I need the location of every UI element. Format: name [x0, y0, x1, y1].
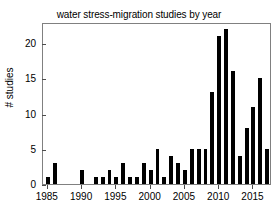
bar [231, 71, 235, 184]
bar [53, 163, 57, 184]
x-tick-mark [47, 185, 48, 189]
bar [162, 177, 166, 184]
y-tick-label: 20 [2, 38, 36, 49]
bar [204, 149, 208, 184]
y-tick-label: 0 [2, 179, 36, 190]
bar [258, 78, 262, 184]
bar [80, 170, 84, 184]
y-tick-mark [42, 185, 46, 186]
bar [265, 149, 269, 184]
bar [149, 170, 153, 184]
bar [197, 149, 201, 184]
y-tick-label: 5 [2, 144, 36, 155]
bar [94, 177, 98, 184]
bar [217, 36, 221, 184]
x-tick-label: 2000 [130, 191, 170, 202]
y-axis-label: # studies [4, 52, 15, 124]
bar [183, 170, 187, 184]
x-tick-label: 2010 [198, 191, 238, 202]
bar [245, 128, 249, 184]
chart-title: water stress-migration studies by year [0, 9, 278, 20]
x-tick-mark [150, 185, 151, 189]
x-tick-label: 1995 [95, 191, 135, 202]
x-tick-mark [218, 185, 219, 189]
bar [224, 29, 228, 184]
x-tick-label: 2015 [232, 191, 272, 202]
bar [190, 149, 194, 184]
bar [176, 163, 180, 184]
bar-series [43, 24, 270, 184]
x-tick-label: 2005 [164, 191, 204, 202]
bar [251, 107, 255, 184]
bar [114, 177, 118, 184]
bar [128, 177, 132, 184]
bar [169, 156, 173, 184]
plot-area [42, 23, 271, 185]
x-tick-label: 1990 [61, 191, 101, 202]
x-tick-mark [115, 185, 116, 189]
bar [101, 177, 105, 184]
x-tick-mark [252, 185, 253, 189]
bar [156, 149, 160, 184]
bar [210, 92, 214, 184]
chart-figure: water stress-migration studies by year #… [0, 0, 278, 214]
bar [121, 163, 125, 184]
bar [135, 177, 139, 184]
x-tick-label: 1985 [27, 191, 67, 202]
bar [108, 170, 112, 184]
bar [142, 163, 146, 184]
bar [46, 177, 50, 184]
x-tick-mark [184, 185, 185, 189]
bar [238, 156, 242, 184]
x-tick-mark [81, 185, 82, 189]
